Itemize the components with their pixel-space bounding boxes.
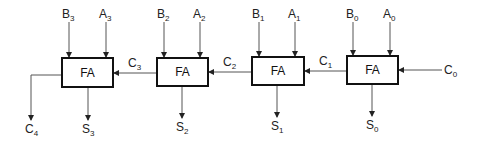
label-c0: C0	[444, 63, 458, 79]
svg-text:FA: FA	[175, 65, 190, 79]
label-a2: A2	[193, 7, 206, 23]
label-c4: C4	[25, 122, 39, 138]
label-b3: B3	[62, 7, 75, 23]
full-adder-1: FA	[252, 57, 304, 85]
label-s3: S3	[82, 122, 95, 138]
label-b2: B2	[157, 7, 170, 23]
ripple-carry-adder-diagram: FA FA FA FA B3 A3 B2 A2 B1 A1 B0 A0 C3 C…	[0, 0, 481, 143]
full-adder-0: FA	[347, 56, 398, 84]
label-a1: A1	[288, 7, 301, 23]
label-c3: C3	[128, 56, 142, 72]
svg-text:FA: FA	[365, 63, 380, 77]
label-s2: S2	[176, 120, 189, 136]
svg-text:FA: FA	[271, 64, 286, 78]
full-adder-3: FA	[62, 58, 113, 87]
input-wires	[69, 22, 390, 57]
output-labels: C4 S3 S2 S1 S0	[25, 118, 379, 138]
label-b1: B1	[252, 7, 265, 23]
label-s0: S0	[366, 118, 379, 134]
svg-text:FA: FA	[80, 66, 95, 80]
label-a0: A0	[383, 7, 396, 23]
label-s1: S1	[271, 119, 284, 135]
label-c1: C1	[319, 54, 333, 70]
full-adder-2: FA	[157, 58, 208, 86]
input-labels: B3 A3 B2 A2 B1 A1 B0 A0	[62, 7, 396, 23]
sum-wires	[88, 84, 372, 120]
label-b0: B0	[346, 7, 359, 23]
label-c2: C2	[223, 55, 237, 71]
label-a3: A3	[99, 7, 112, 23]
